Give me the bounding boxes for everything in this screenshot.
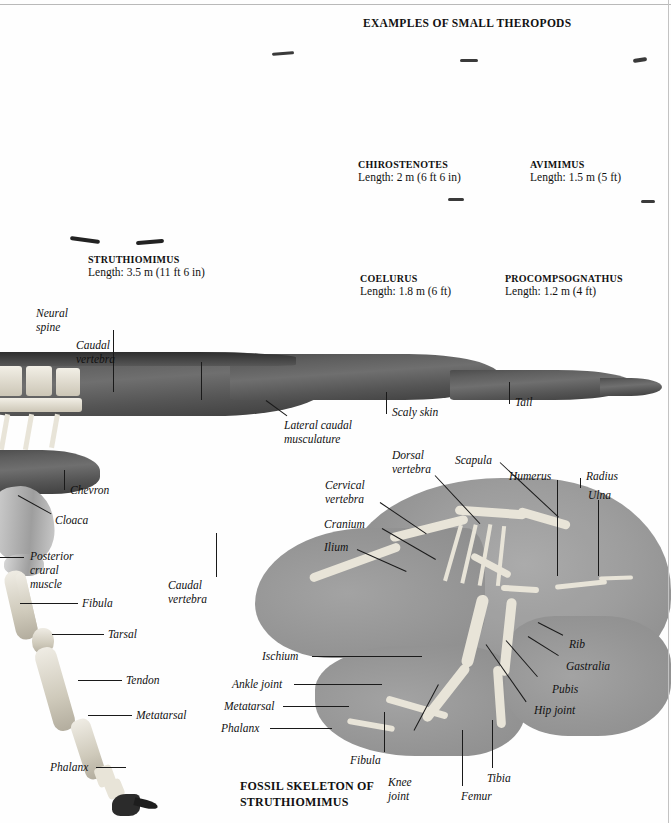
- procompsognathus-illustration: [495, 200, 665, 278]
- label-neural-spine: Neural spine: [36, 306, 106, 334]
- label-lateral-caudal-musculature: Lateral caudal musculature: [284, 418, 384, 446]
- label-metatarsal-left: Metatarsal: [136, 708, 186, 722]
- hindlimb-musculature-illustration: [0, 450, 200, 820]
- coelurus-illustration: [288, 196, 478, 276]
- leader-chevron: [64, 470, 65, 490]
- label-femur: Femur: [461, 789, 492, 803]
- label-scaly-skin: Scaly skin: [392, 405, 438, 419]
- label-rib: Rib: [569, 637, 585, 651]
- illustration-page: EXAMPLES OF SMALL THEROPODS STRUTHIOMIMU…: [0, 0, 671, 823]
- label-chevron: Chevron: [70, 483, 109, 497]
- leader-fibula: [20, 603, 78, 604]
- label-tarsal: Tarsal: [108, 627, 137, 641]
- label-pubis: Pubis: [552, 682, 578, 696]
- caption-line-1: FOSSIL SKELETON OF: [240, 779, 374, 793]
- specimen-length-procompsognathus: Length: 1.2 m (4 ft): [505, 284, 596, 299]
- specimen-length-coelurus: Length: 1.8 m (6 ft): [360, 284, 451, 299]
- label-phalanx-left: Phalanx: [50, 760, 88, 774]
- label-tendon: Tendon: [126, 673, 159, 687]
- section-title-text: EXAMPLES OF SMALL THEROPODS: [363, 17, 571, 29]
- fossil-skeleton-illustration: [255, 466, 671, 786]
- label-radius: Radius: [586, 469, 618, 483]
- leader-ischium: [312, 656, 422, 657]
- leader-tail: [509, 382, 510, 404]
- leader-tendon: [78, 680, 122, 681]
- leader-ankle-joint: [294, 684, 382, 685]
- label-humerus: Humerus: [509, 469, 551, 483]
- leader-ulna: [598, 500, 599, 576]
- label-tail: Tail: [515, 395, 532, 409]
- leader-tibia: [492, 720, 493, 768]
- label-fibula-skeleton: Fibula: [350, 753, 381, 767]
- label-tibia: Tibia: [487, 771, 511, 785]
- label-ulna: Ulna: [588, 488, 611, 502]
- specimen-length-chirostenotes: Length: 2 m (6 ft 6 in): [358, 170, 461, 185]
- leader-tarsal: [52, 634, 104, 635]
- label-caudal-vertebra-top: Caudal vertebra: [76, 338, 150, 366]
- label-dorsal-vertebra: Dorsal vertebra: [392, 448, 452, 476]
- fossil-skeleton-caption: FOSSIL SKELETON OF STRUTHIOMIMUS: [240, 778, 374, 810]
- leader-caudal-vertebra-skeleton: [216, 533, 217, 577]
- leader-metatarsal-skeleton: [283, 706, 349, 707]
- leader-radius: [580, 478, 581, 488]
- struthiomimus-illustration: [10, 50, 290, 245]
- leader-metatarsal-left: [88, 715, 132, 716]
- leader-femur: [462, 730, 463, 786]
- leader-fibula-skeleton: [384, 712, 385, 752]
- label-gastralia: Gastralia: [566, 659, 610, 673]
- leader-humerus: [557, 480, 558, 576]
- label-fibula: Fibula: [82, 596, 113, 610]
- label-posterior-crural-muscle: Posterior crural muscle: [30, 549, 94, 591]
- label-hip-joint: Hip joint: [534, 703, 575, 717]
- section-title: EXAMPLES OF SMALL THEROPODS: [363, 16, 571, 30]
- label-knee-joint: Knee joint: [388, 775, 428, 803]
- label-ankle-joint: Ankle joint: [232, 677, 282, 691]
- label-cervical-vertebra: Cervical vertebra: [325, 478, 385, 506]
- label-caudal-vertebra-skeleton: Caudal vertebra: [168, 578, 228, 606]
- avimimus-illustration: [505, 50, 655, 155]
- leader-caudal-vertebra-top: [201, 362, 202, 400]
- caption-line-2: STRUTHIOMIMUS: [240, 795, 349, 809]
- label-scapula: Scapula: [455, 453, 492, 467]
- specimen-length-avimimus: Length: 1.5 m (5 ft): [530, 170, 621, 185]
- leader-scaly-skin: [386, 392, 387, 414]
- label-cranium: Cranium: [324, 517, 365, 531]
- label-cloaca: Cloaca: [55, 513, 88, 527]
- label-metatarsal-skeleton: Metatarsal: [224, 699, 274, 713]
- leader-phalanx-skeleton: [270, 728, 332, 729]
- label-ischium: Ischium: [262, 649, 298, 663]
- label-ilium: Ilium: [324, 540, 348, 554]
- chirostenotes-illustration: [300, 55, 480, 155]
- specimen-length-struthiomimus: Length: 3.5 m (11 ft 6 in): [88, 265, 205, 280]
- leader-phalanx-left: [96, 767, 126, 768]
- leader-posterior-crural: [0, 557, 24, 558]
- label-phalanx-skeleton: Phalanx: [221, 721, 259, 735]
